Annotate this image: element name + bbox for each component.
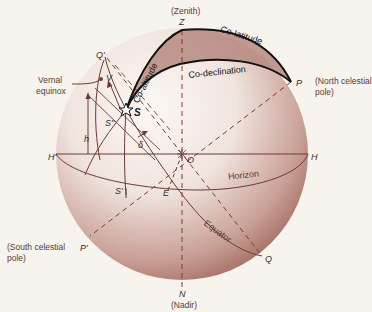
- nadir-caption: (Nadir): [171, 300, 197, 310]
- star-horizon-foot-label: S': [115, 186, 123, 196]
- south-pole-caption-2: pole): [7, 253, 26, 263]
- zenith-caption: (Zenith): [171, 6, 200, 16]
- equator-top-label: Q': [96, 50, 105, 60]
- north-pole-caption-2: pole): [315, 87, 334, 97]
- center-mark-icon: [177, 149, 187, 159]
- zenith-label: Z: [179, 17, 185, 27]
- vernal-equinox-caption-1: Vernal: [38, 75, 62, 85]
- north-pole-caption-1: (North celestial: [315, 76, 372, 86]
- altitude-label: h: [84, 134, 89, 144]
- vernal-equinox-dot: [99, 77, 103, 81]
- declination-label: δ: [138, 140, 143, 150]
- south-pole-label: P': [80, 243, 88, 253]
- horizon-east-label: H: [311, 152, 318, 162]
- east-point-label: E: [163, 188, 169, 198]
- vernal-equinox-caption-2: equinox: [36, 86, 66, 96]
- north-pole-label: P: [296, 78, 302, 88]
- equator-bottom-label: Q: [265, 254, 272, 264]
- vernal-equinox-label: V: [106, 73, 112, 83]
- south-pole-caption-1: (South celestial: [7, 242, 65, 252]
- horizon-west-label: H': [48, 152, 56, 162]
- center-label: O: [187, 155, 194, 165]
- nadir-label: N: [179, 289, 186, 299]
- star-label: S: [134, 108, 141, 118]
- star-equator-foot-label: S'': [105, 118, 114, 128]
